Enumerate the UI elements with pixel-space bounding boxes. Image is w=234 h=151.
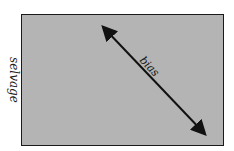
bias-arrow-icon xyxy=(0,0,234,151)
